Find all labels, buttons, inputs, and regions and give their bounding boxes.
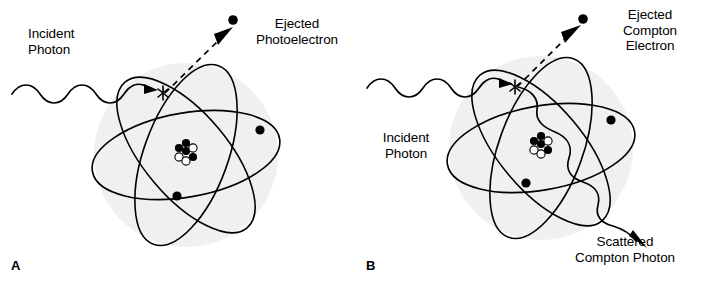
ejected-photoelectron-arrowhead (214, 27, 233, 45)
nucleon-neutron-3 (537, 150, 545, 158)
nucleon-proton-4 (182, 139, 190, 147)
scattered-compton-photon-label: Scattered Compton Photon (540, 234, 710, 265)
ejected-photoelectron-particle (228, 15, 238, 25)
incident-photon-label: Incident Photon (358, 130, 454, 161)
nucleon-neutron-1 (544, 137, 552, 145)
ejected-compton-electron-label: Ejected Compton Electron (592, 7, 708, 54)
ejected-compton-electron-particle (578, 14, 588, 24)
ejected-photoelectron-label: Ejected Photoelectron (238, 16, 356, 47)
nucleon-proton-2 (175, 144, 183, 152)
panel-photoelectric-effect: Incident Photon Ejected Photoelectron A (0, 0, 355, 286)
panel-letter-a: A (11, 258, 20, 273)
incident-photon-label: Incident Photon (28, 26, 120, 57)
nucleon-proton-2 (530, 137, 538, 145)
panel-letter-b: B (366, 258, 375, 273)
nucleon-neutron-3 (182, 157, 190, 165)
orbital-electron-2 (172, 191, 181, 200)
panel-compton-scattering: Ejected Compton Electron Incident Photon… (355, 0, 710, 286)
orbital-electron-1 (606, 115, 615, 124)
nucleon-proton-4 (537, 132, 545, 140)
figure-root: Incident Photon Ejected Photoelectron A (0, 0, 710, 286)
orbital-electron-1 (255, 125, 264, 134)
nucleon-neutron-1 (189, 144, 197, 152)
orbital-electron-2 (521, 178, 530, 187)
